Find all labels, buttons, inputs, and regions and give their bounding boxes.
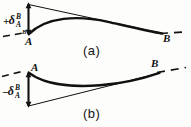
elastic-curve-b: [29, 73, 160, 86]
panel-b-graphics: [2, 68, 186, 108]
dashed-reference-right-b: [157, 68, 186, 73]
panel-label-b: (b): [83, 106, 100, 121]
delta-subscript-a: A: [16, 21, 21, 29]
delta-symbol-b: δ: [8, 84, 14, 99]
point-label-b-start: A: [31, 62, 38, 73]
point-label-a-end: B: [163, 33, 170, 44]
panel-a-graphics: [3, 2, 188, 36]
elastic-curve-a: [29, 18, 163, 34]
dashed-reference-left-a: [3, 33, 22, 36]
delta-indices-b: B A: [15, 84, 20, 100]
dashed-reference-left-b: [2, 72, 22, 77]
panel-label-a: (a): [83, 43, 100, 58]
dimension-arrowhead-bottom-b: [26, 102, 32, 108]
delta-indices-a: B A: [16, 13, 21, 29]
deflection-label-b: − δ B A: [2, 84, 20, 100]
delta-symbol-a: δ: [9, 13, 15, 28]
delta-subscript-b: A: [15, 92, 20, 100]
point-label-a-start: A: [25, 36, 32, 47]
deflection-figure: + δ B A B A B (a) − δ B A A B (b): [0, 0, 191, 127]
deflection-label-a: + δ B A: [3, 13, 21, 29]
point-label-b-end: B: [151, 58, 158, 69]
